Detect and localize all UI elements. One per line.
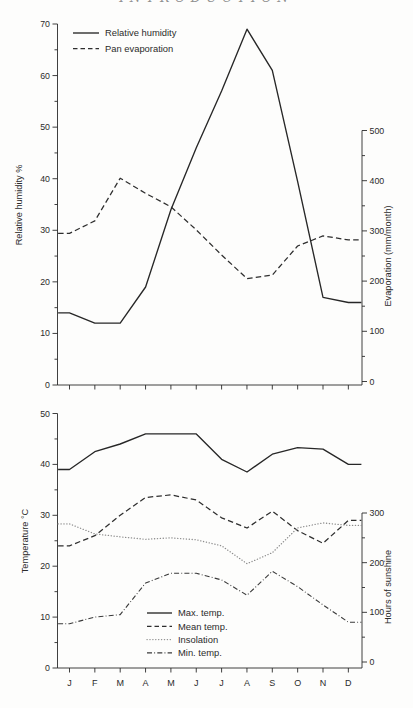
legend-label: Max. temp. [178, 607, 224, 618]
month-label: S [269, 678, 275, 688]
month-label: J [67, 678, 72, 688]
left-axis [53, 24, 58, 385]
legend: Relative humidityPan evaporation [73, 27, 177, 54]
right-tick-label: 400 [370, 176, 385, 186]
series-relative-humidity [58, 29, 361, 323]
series-max-temp [58, 434, 361, 472]
series-mean-temp [58, 495, 361, 546]
legend-label: Pan evaporation [105, 43, 173, 54]
left-tick-label: 30 [40, 225, 50, 235]
month-label: M [167, 678, 175, 688]
left-tick-label: 50 [40, 409, 50, 419]
right-axis-title: Evaporation (mm/month) [383, 205, 393, 306]
humidity-evaporation-chart: 010203040506070Relative humidity %010020… [14, 19, 393, 390]
document-page: INTRODUCTION 010203040506070Relative hum… [0, 0, 413, 708]
left-axis-title: Temperature °C [20, 508, 30, 573]
month-label: O [294, 678, 301, 688]
right-axis [362, 513, 367, 668]
left-tick-label: 50 [40, 122, 50, 132]
right-tick-label: 100 [370, 326, 385, 336]
left-tick-label: 10 [40, 612, 50, 622]
month-label: A [244, 678, 250, 688]
month-label: J [219, 678, 224, 688]
right-tick-label: 300 [370, 508, 385, 518]
x-axis [58, 385, 363, 390]
left-tick-label: 40 [40, 174, 50, 184]
left-tick-label: 0 [45, 380, 50, 390]
legend-label: Min. temp. [178, 647, 222, 658]
series-insolation [58, 523, 361, 564]
left-tick-label: 20 [40, 561, 50, 571]
month-label: N [320, 678, 327, 688]
right-axis-title: Hours of sunshine [383, 550, 393, 624]
month-label: J [194, 678, 199, 688]
month-label: A [143, 678, 149, 688]
left-tick-label: 0 [45, 663, 50, 673]
legend-label: Relative humidity [105, 27, 177, 38]
right-axis [362, 131, 367, 386]
month-label: M [116, 678, 124, 688]
climate-figure: 010203040506070Relative humidity %010020… [0, 0, 413, 708]
legend-row: Mean temp. [147, 621, 228, 632]
right-tick-label: 0 [370, 377, 375, 387]
legend-label: Mean temp. [178, 621, 228, 632]
x-axis [58, 668, 363, 673]
left-tick-label: 30 [40, 510, 50, 520]
legend-row: Max. temp. [147, 607, 224, 618]
left-tick-label: 10 [40, 328, 50, 338]
temperature-sunshine-chart: 01020304050Temperature °C0100200300Hours… [20, 409, 393, 689]
month-label: D [345, 678, 352, 688]
left-axis-title: Relative humidity % [14, 165, 24, 246]
left-tick-label: 40 [40, 459, 50, 469]
left-axis [53, 414, 58, 669]
legend-label: Insolation [178, 634, 218, 645]
legend-row: Insolation [147, 634, 218, 645]
right-tick-label: 500 [370, 126, 385, 136]
left-tick-label: 20 [40, 277, 50, 287]
left-tick-label: 70 [40, 19, 50, 29]
legend: Max. temp.Mean temp.InsolationMin. temp. [147, 607, 228, 658]
legend-row: Min. temp. [147, 647, 222, 658]
left-tick-label: 60 [40, 71, 50, 81]
legend-row: Relative humidity [73, 27, 177, 38]
month-label: F [92, 678, 98, 688]
legend-row: Pan evaporation [73, 43, 173, 54]
right-tick-label: 0 [370, 657, 375, 667]
